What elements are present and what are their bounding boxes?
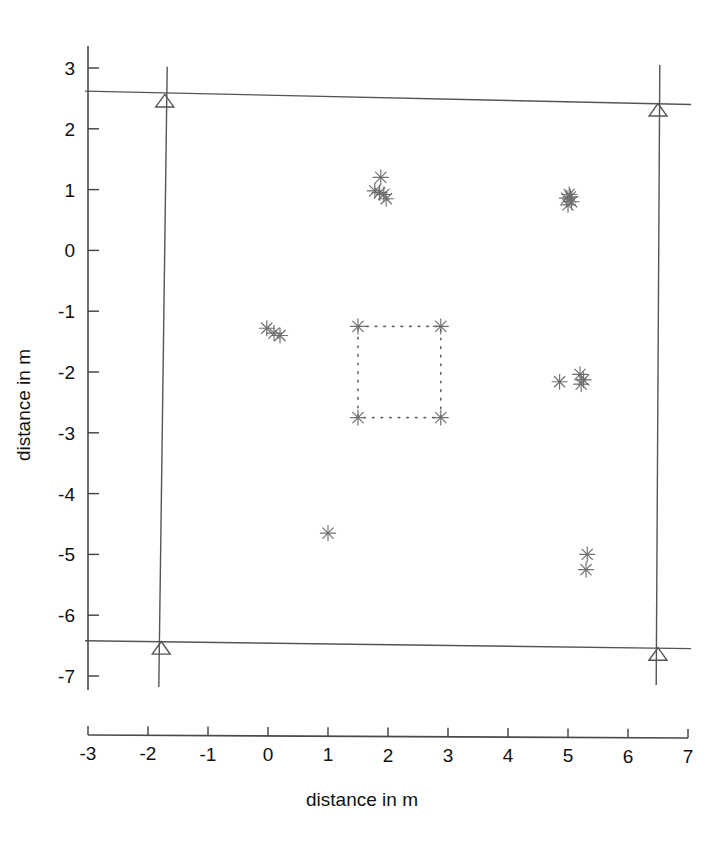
room-outline-group bbox=[85, 65, 691, 687]
y-tick-label: -2 bbox=[58, 362, 75, 383]
anchor-node-markers bbox=[152, 94, 667, 660]
x-tick-label: -1 bbox=[200, 744, 217, 765]
y-axis-ticks bbox=[88, 68, 99, 676]
x-axis-tick-labels: -3-2-101234567 bbox=[80, 743, 694, 767]
x-tick-label: -3 bbox=[80, 743, 97, 764]
y-tick-label: 3 bbox=[64, 58, 75, 79]
y-tick-label: -1 bbox=[58, 301, 75, 322]
scatter-plot-figure: -3-2-101234567 -7-6-5-4-3-2-10123 distan… bbox=[0, 0, 725, 842]
x-tick-label: 3 bbox=[443, 745, 454, 766]
x-tick-label: 0 bbox=[263, 744, 274, 765]
anchor-triangle-marker bbox=[152, 642, 170, 655]
x-tick-label: 7 bbox=[683, 746, 694, 767]
x-tick-label: 2 bbox=[383, 745, 394, 766]
x-tick-label: 4 bbox=[503, 745, 514, 766]
room-outline-top bbox=[85, 91, 691, 104]
x-tick-label: 5 bbox=[563, 745, 574, 766]
room-outline-right bbox=[656, 65, 660, 685]
axes-group bbox=[88, 46, 688, 738]
y-tick-label: 2 bbox=[64, 119, 75, 140]
y-tick-label: 1 bbox=[64, 180, 75, 201]
y-tick-label: -4 bbox=[58, 484, 75, 505]
x-axis-title: distance in m bbox=[306, 789, 418, 810]
y-tick-label: 0 bbox=[64, 240, 75, 261]
y-axis-title: distance in m bbox=[13, 349, 34, 461]
y-tick-label: -3 bbox=[58, 423, 75, 444]
anchor-triangle-marker bbox=[649, 648, 667, 661]
anchor-triangle-marker bbox=[156, 94, 174, 107]
anchor-triangle-marker bbox=[649, 103, 667, 116]
inner-dotted-square bbox=[358, 326, 441, 417]
y-tick-label: -6 bbox=[58, 605, 75, 626]
plot-canvas: -3-2-101234567 -7-6-5-4-3-2-10123 distan… bbox=[0, 0, 725, 842]
x-tick-label: 6 bbox=[623, 746, 634, 767]
x-tick-label: -2 bbox=[140, 743, 157, 764]
room-outline-left bbox=[159, 67, 167, 687]
y-tick-label: -5 bbox=[58, 544, 75, 565]
inner-dotted-square bbox=[358, 326, 441, 417]
y-axis-tick-labels: -7-6-5-4-3-2-10123 bbox=[58, 58, 75, 687]
x-tick-label: 1 bbox=[323, 744, 334, 765]
y-tick-label: -7 bbox=[58, 666, 75, 687]
room-outline-bottom bbox=[85, 641, 691, 649]
data-point-markers bbox=[259, 170, 594, 577]
